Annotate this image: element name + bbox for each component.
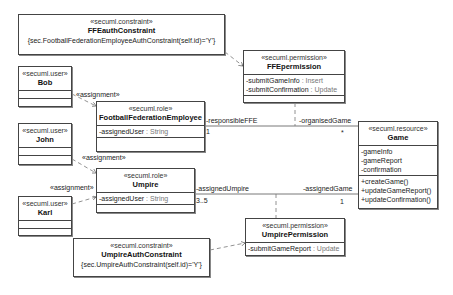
class-name: FootballFederationEmployee bbox=[99, 113, 202, 123]
attribute: -submitGameReport : Update bbox=[248, 244, 342, 253]
class-name: Karl bbox=[21, 208, 69, 218]
stereotype: «secuml.resource» bbox=[361, 124, 435, 133]
attributes-compartment: -assignedUser : String bbox=[97, 192, 194, 204]
role-end-label: -organisedGame bbox=[299, 117, 351, 125]
operation: +createGame() bbox=[361, 177, 435, 186]
role-end-label: -assignedUmpire bbox=[196, 185, 249, 193]
umpire-auth-constraint-class[interactable]: «secuml.constraint» UmpireAuthConstraint… bbox=[73, 238, 210, 277]
operations-compartment bbox=[19, 98, 71, 106]
class-name: John bbox=[21, 135, 69, 145]
ffe-permission-class[interactable]: «secuml.permission» FFEpermission -submi… bbox=[243, 50, 345, 103]
umpire-role-class[interactable]: «secuml.role» Umpire -assignedUser : Str… bbox=[96, 168, 195, 213]
attributes-compartment bbox=[19, 90, 71, 98]
role-end-label: -assignedGame bbox=[303, 185, 352, 193]
game-resource-class[interactable]: «secuml.resource» Game -gameInfo -gameRe… bbox=[358, 121, 438, 209]
attributes-compartment: -submitGameInfo : Insert -submitConfirma… bbox=[244, 74, 344, 95]
stereotype: «secuml.user» bbox=[21, 126, 69, 135]
stereotype: «secuml.permission» bbox=[248, 221, 342, 230]
stereotype: «secuml.permission» bbox=[246, 53, 342, 62]
operations-compartment bbox=[19, 155, 71, 163]
attributes-compartment bbox=[19, 220, 71, 228]
attributes-compartment: -assignedUser : String bbox=[97, 125, 204, 137]
ffe-auth-constraint-class[interactable]: «secuml.constraint» FFEauthConstraint {s… bbox=[18, 14, 225, 55]
operation: +updateGameReport() bbox=[361, 186, 435, 195]
umpire-permission-class[interactable]: «secuml.permission» UmpirePermission -su… bbox=[245, 218, 345, 256]
multiplicity-label: 1 bbox=[340, 198, 344, 206]
multiplicity-label: 1 bbox=[206, 128, 210, 136]
assignment-label: «assignment» bbox=[50, 184, 94, 192]
attribute: -assignedUser : String bbox=[99, 127, 202, 136]
attribute: -confirmation bbox=[361, 165, 435, 174]
attributes-compartment bbox=[19, 147, 71, 155]
operations-compartment: +createGame() +updateGameReport() +updat… bbox=[359, 175, 437, 205]
operations-compartment bbox=[97, 204, 194, 214]
attributes-compartment: -gameInfo -gameReport -confirmation bbox=[359, 145, 437, 175]
stereotype: «secuml.role» bbox=[99, 104, 202, 113]
stereotype: «secuml.constraint» bbox=[21, 17, 222, 26]
class-name: Bob bbox=[21, 78, 69, 88]
ffe-role-class[interactable]: «secuml.role» FootballFederationEmployee… bbox=[96, 101, 205, 152]
operations-compartment bbox=[244, 95, 344, 105]
constraint-expression: {sec.UmpireAuthConstraint(self.id)='Y'} bbox=[76, 260, 207, 269]
class-name: UmpirePermission bbox=[248, 230, 342, 240]
operation: +updateConfirmation() bbox=[361, 195, 435, 204]
user-john-class[interactable]: «secuml.user» John bbox=[18, 123, 72, 165]
attribute: -assignedUser : String bbox=[99, 194, 192, 203]
attribute: -submitGameInfo : Insert bbox=[246, 76, 342, 85]
attribute: -gameReport bbox=[361, 156, 435, 165]
role-end-label: -responsibleFFE bbox=[206, 117, 257, 125]
assignment-label: «assignment» bbox=[76, 91, 120, 99]
attribute: -gameInfo bbox=[361, 147, 435, 156]
attributes-compartment: -submitGameReport : Update bbox=[246, 242, 344, 254]
class-name: FFEpermission bbox=[246, 62, 342, 72]
class-name: Umpire bbox=[99, 180, 192, 190]
stereotype: «secuml.user» bbox=[21, 69, 69, 78]
attribute: -submitConfirmation : Update bbox=[246, 85, 342, 94]
multiplicity-label: * bbox=[341, 129, 344, 137]
stereotype: «secuml.user» bbox=[21, 199, 69, 208]
stereotype: «secuml.role» bbox=[99, 171, 192, 180]
class-name: FFEauthConstraint bbox=[21, 26, 222, 36]
class-name: UmpireAuthConstraint bbox=[76, 250, 207, 260]
class-name: Game bbox=[361, 133, 435, 143]
operations-compartment bbox=[97, 137, 204, 147]
assignment-label: «assignment» bbox=[82, 154, 126, 162]
operations-compartment bbox=[19, 228, 71, 236]
constraint-expression: {sec.FootballFederationEmployeeAuthConst… bbox=[21, 36, 222, 45]
multiplicity-label: 3..5 bbox=[196, 197, 208, 205]
user-bob-class[interactable]: «secuml.user» Bob bbox=[18, 66, 72, 107]
user-karl-class[interactable]: «secuml.user» Karl bbox=[18, 196, 72, 236]
stereotype: «secuml.constraint» bbox=[76, 241, 207, 250]
